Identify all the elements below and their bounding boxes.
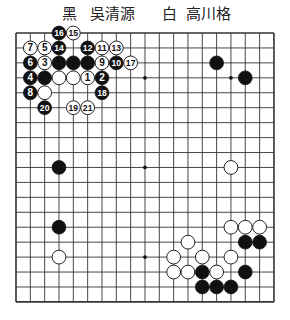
- black-stone-disc: [195, 280, 209, 294]
- white-stone-disc: [167, 265, 181, 279]
- move-number-label: 2: [99, 72, 105, 83]
- black-stone: [66, 56, 80, 70]
- move-number-label: 16: [54, 29, 64, 38]
- white-stone: [167, 265, 181, 279]
- move-number-label: 19: [69, 104, 79, 113]
- black-stone: [52, 56, 66, 70]
- white-stone-disc: [253, 220, 267, 234]
- move-number-label: 10: [112, 59, 122, 68]
- black-stone: 16: [52, 26, 66, 40]
- black-stone: [238, 235, 252, 249]
- move-number-label: 12: [83, 44, 93, 53]
- white-stone-disc: [167, 250, 181, 264]
- white-stone-disc: [66, 71, 80, 85]
- black-stone: [52, 161, 66, 175]
- black-stone-disc: [38, 71, 52, 85]
- white-stone-disc: [210, 265, 224, 279]
- black-stone: 8: [23, 86, 37, 100]
- black-stone-disc: [81, 56, 95, 70]
- star-point-icon: [143, 166, 147, 170]
- black-stone: [253, 235, 267, 249]
- white-stone: [181, 235, 195, 249]
- black-stone: 14: [52, 41, 66, 55]
- white-stone: 19: [66, 101, 80, 115]
- black-stone-disc: [253, 235, 267, 249]
- white-stone: 17: [124, 56, 138, 70]
- white-stone: 13: [109, 41, 123, 55]
- move-number-label: 13: [112, 44, 122, 53]
- white-stone: [181, 265, 195, 279]
- black-stone-disc: [66, 56, 80, 70]
- white-stone: 11: [95, 41, 109, 55]
- move-number-label: 15: [69, 29, 79, 38]
- move-number-label: 20: [40, 104, 50, 113]
- black-stone-disc: [210, 280, 224, 294]
- white-stone: [52, 71, 66, 85]
- black-stone-disc: [210, 56, 224, 70]
- black-stone: [238, 71, 252, 85]
- black-stone-disc: [238, 265, 252, 279]
- white-stone: 3: [38, 56, 52, 70]
- white-stone: [210, 265, 224, 279]
- black-stone: 10: [109, 56, 123, 70]
- white-stone: [224, 161, 238, 175]
- black-stone-disc: [238, 235, 252, 249]
- white-stone: [238, 220, 252, 234]
- white-stone: 1: [81, 71, 95, 85]
- move-number-label: 7: [28, 42, 34, 53]
- white-stone-disc: [52, 71, 66, 85]
- white-stone-disc: [224, 250, 238, 264]
- white-stone: 21: [81, 101, 95, 115]
- black-stone: [238, 265, 252, 279]
- white-stone-disc: [224, 220, 238, 234]
- white-stone-disc: [38, 86, 52, 100]
- star-point-icon: [143, 76, 147, 80]
- black-stone: 12: [81, 41, 95, 55]
- white-stone: [167, 250, 181, 264]
- move-number-label: 17: [126, 59, 136, 68]
- go-board: 161575141211136391017412818201921: [0, 0, 290, 320]
- move-number-label: 8: [28, 87, 34, 98]
- white-stone-disc: [181, 235, 195, 249]
- white-stone: [38, 86, 52, 100]
- black-stone: [52, 220, 66, 234]
- move-number-label: 11: [97, 44, 107, 53]
- move-number-label: 18: [97, 89, 107, 98]
- move-number-label: 1: [85, 72, 91, 83]
- move-number-label: 14: [54, 44, 64, 53]
- black-stone: [210, 56, 224, 70]
- black-stone: [81, 56, 95, 70]
- white-stone: [195, 250, 209, 264]
- white-stone: 7: [23, 41, 37, 55]
- move-number-label: 6: [28, 57, 34, 68]
- white-stone: 15: [66, 26, 80, 40]
- white-stone-disc: [238, 220, 252, 234]
- black-stone: [195, 280, 209, 294]
- black-stone: [224, 280, 238, 294]
- white-stone: [253, 220, 267, 234]
- white-stone-disc: [224, 161, 238, 175]
- black-stone-disc: [195, 265, 209, 279]
- move-number-label: 5: [42, 42, 48, 53]
- white-stone: [224, 220, 238, 234]
- black-stone: 20: [38, 101, 52, 115]
- black-stone: 2: [95, 71, 109, 85]
- white-stone: [52, 250, 66, 264]
- black-stone-disc: [52, 220, 66, 234]
- move-number-label: 9: [99, 57, 105, 68]
- white-stone-disc: [181, 265, 195, 279]
- black-stone: [38, 71, 52, 85]
- white-stone: 9: [95, 56, 109, 70]
- black-stone-disc: [224, 280, 238, 294]
- white-stone: [66, 71, 80, 85]
- black-stone: 4: [23, 71, 37, 85]
- star-point-icon: [229, 76, 233, 80]
- black-stone: [195, 265, 209, 279]
- black-stone-disc: [52, 161, 66, 175]
- black-stone-disc: [52, 56, 66, 70]
- white-stone: [224, 250, 238, 264]
- white-stone-disc: [195, 250, 209, 264]
- white-stone: 5: [38, 41, 52, 55]
- star-point-icon: [143, 255, 147, 259]
- black-stone-disc: [238, 71, 252, 85]
